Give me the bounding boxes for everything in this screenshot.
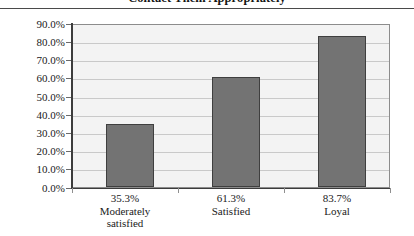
chart-title-clip: Contact Them Appropriately: [0, 0, 414, 7]
bar-loyal: [318, 36, 366, 187]
y-axis-label: 90.0%: [5, 19, 65, 30]
category-value: 35.3%: [65, 192, 185, 205]
title-divider: [0, 8, 414, 9]
category-label-moderately-satisfied: 35.3% Moderately satisfied: [65, 192, 185, 230]
bar-moderately-satisfied: [106, 124, 154, 188]
plot-inner: [73, 25, 389, 187]
category-name-line: Moderately: [65, 205, 185, 218]
category-value: 61.3%: [171, 192, 291, 205]
y-axis-label: 0.0%: [5, 183, 65, 194]
chart-title: Contact Them Appropriately: [0, 0, 414, 6]
category-value: 83.7%: [277, 192, 397, 205]
y-axis-label: 80.0%: [5, 37, 65, 48]
y-axis-label: 20.0%: [5, 146, 65, 157]
category-label-satisfied: 61.3% Satisfied: [171, 192, 291, 217]
category-name-line: Satisfied: [171, 205, 291, 218]
y-axis-label: 10.0%: [5, 164, 65, 175]
category-name-line: satisfied: [65, 217, 185, 230]
category-name-line: Loyal: [277, 205, 397, 218]
y-axis-label: 60.0%: [5, 73, 65, 84]
bar-satisfied: [212, 77, 260, 187]
category-label-loyal: 83.7% Loyal: [277, 192, 397, 217]
plot-area: [72, 24, 390, 188]
y-axis-line: [71, 23, 73, 189]
y-axis-label: 70.0%: [5, 55, 65, 66]
chart-figure: Contact Them Appropriately 90.0% 80.0% 7…: [0, 0, 414, 236]
y-axis-label: 40.0%: [5, 110, 65, 121]
y-axis-label: 30.0%: [5, 128, 65, 139]
x-axis-line: [71, 188, 391, 189]
y-axis-label: 50.0%: [5, 92, 65, 103]
